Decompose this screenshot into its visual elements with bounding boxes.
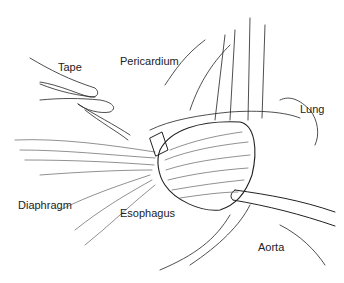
- illustration: Tape Pericardium Lung Diaphragm Esophagu…: [0, 0, 344, 283]
- label-esophagus: Esophagus: [120, 208, 175, 219]
- anatomy-drawing: [0, 0, 344, 283]
- label-lung: Lung: [300, 104, 324, 115]
- label-tape: Tape: [58, 62, 82, 73]
- label-diaphragm: Diaphragm: [18, 200, 72, 211]
- label-aorta: Aorta: [258, 242, 284, 253]
- label-pericardium: Pericardium: [120, 56, 179, 67]
